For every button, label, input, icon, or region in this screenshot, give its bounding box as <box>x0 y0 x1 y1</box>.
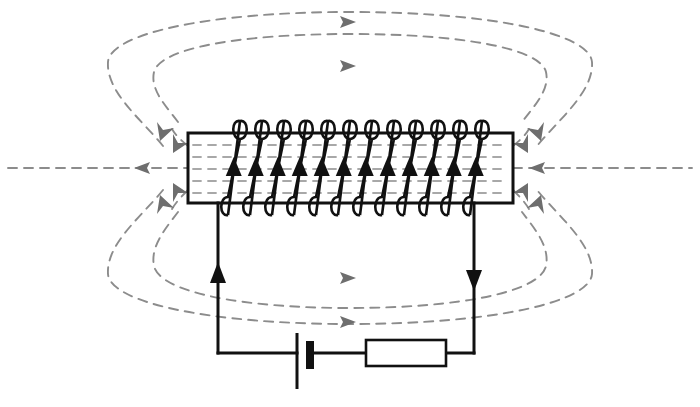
resistor-symbol <box>366 340 446 366</box>
diagram-canvas <box>0 0 700 407</box>
battery-negative-plate <box>306 341 314 369</box>
solenoid-field-diagram <box>0 0 700 407</box>
